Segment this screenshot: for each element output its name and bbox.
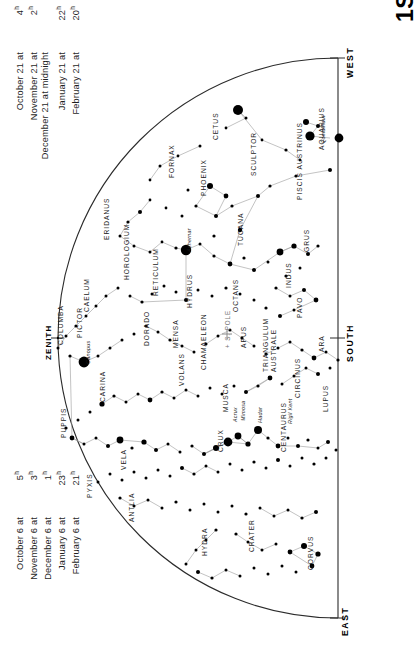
star: [65, 335, 68, 338]
star: [203, 503, 206, 506]
star: [335, 134, 344, 143]
star: [278, 314, 282, 318]
star: [225, 569, 228, 572]
star: [97, 481, 100, 484]
star: [287, 509, 290, 512]
star: [233, 385, 236, 388]
constellation-label: PYXIS: [86, 473, 93, 498]
constellation-label: VELA: [120, 449, 127, 470]
star: [149, 199, 152, 202]
constellation-label: LUPUS: [322, 385, 329, 412]
star: [121, 479, 124, 482]
star: [233, 105, 243, 115]
star: [133, 471, 136, 474]
star: [165, 207, 168, 210]
star: [89, 411, 92, 414]
star: [214, 528, 217, 531]
star: [205, 465, 208, 468]
constellation-label: DORADO: [143, 311, 150, 346]
star: [244, 390, 248, 394]
date-label: November 6 at: [27, 517, 41, 635]
star: [173, 397, 176, 400]
date-row: February 21 at20h: [66, 6, 80, 170]
cardinal-west: WEST: [345, 47, 355, 78]
star: [225, 127, 228, 130]
constellation-label: OCTANS: [232, 279, 239, 312]
star: [161, 507, 164, 510]
date-row: November 21 at2h: [24, 6, 38, 170]
constellation-label: CORVUS: [307, 536, 314, 570]
star: [316, 372, 320, 376]
star: [180, 466, 184, 470]
star: [300, 348, 303, 351]
star: [106, 444, 110, 448]
constellation-label: COLUMBA: [57, 305, 64, 345]
star: [335, 449, 338, 452]
star: [197, 289, 200, 292]
star: [254, 426, 262, 434]
star: [296, 444, 300, 448]
south-pole-label: + S. POLE: [224, 310, 231, 348]
star: [175, 291, 178, 294]
date-row: October 21 at4h: [10, 6, 24, 170]
star: [256, 384, 259, 387]
star: [303, 119, 309, 125]
star: [253, 299, 256, 302]
constellation-label: ERIDANUS: [103, 198, 110, 240]
constellation-label: MENSA: [172, 319, 179, 348]
star: [244, 512, 247, 515]
page-title: 1S: [392, 0, 415, 22]
constellation-label: ARA: [318, 335, 325, 352]
star: [195, 549, 198, 552]
star: [211, 295, 214, 298]
star: [167, 443, 170, 446]
star: [159, 165, 162, 168]
star: [265, 467, 268, 470]
star: [174, 246, 177, 249]
star: [118, 496, 121, 499]
star: [235, 433, 242, 440]
date-row: January 21 at22h: [52, 6, 66, 170]
constellation-label: HYDRUS: [186, 274, 193, 308]
constellation-label: GRUS: [303, 229, 310, 252]
star: [210, 576, 213, 579]
star: [130, 446, 133, 449]
constellation-label: INDUS: [285, 262, 292, 288]
star: [239, 575, 242, 578]
star: [325, 457, 328, 460]
star: [301, 457, 304, 460]
date-label: January 21 at: [55, 52, 69, 170]
star-name-label: Fomalhaut: [320, 115, 326, 143]
date-label: December 21 at midnight: [38, 52, 52, 170]
star: [281, 383, 284, 386]
star: [224, 438, 233, 447]
star: [157, 469, 160, 472]
star: [133, 333, 136, 336]
star: [196, 570, 200, 574]
constellation-label: ANTLIA: [128, 493, 135, 522]
star: [228, 262, 233, 267]
zenith-label: ZENITH: [44, 325, 53, 361]
constellation-label: CETUS: [212, 112, 219, 140]
star: [268, 184, 271, 187]
constellation-label: TRIANGULUM: [262, 318, 269, 372]
star: [199, 243, 202, 246]
constellation-label: SCULPTOR: [250, 132, 257, 176]
constellation-label: CARINA: [99, 371, 106, 402]
star: [174, 500, 177, 503]
star: [305, 367, 308, 370]
star: [277, 249, 284, 256]
constellation-label: PAVO: [296, 296, 303, 318]
star: [121, 339, 124, 342]
star: [83, 443, 86, 446]
constellation-label: CENTAURUS: [280, 402, 287, 452]
star: [316, 244, 319, 247]
star: [267, 261, 270, 264]
star: [314, 510, 318, 514]
star: [276, 458, 280, 462]
constellation-label: PISCIS AUSTRINUS: [296, 122, 303, 200]
star: [149, 179, 152, 182]
constellation-label: HOROLOGIUM: [123, 224, 130, 280]
star: [267, 573, 270, 576]
star: [193, 351, 196, 354]
